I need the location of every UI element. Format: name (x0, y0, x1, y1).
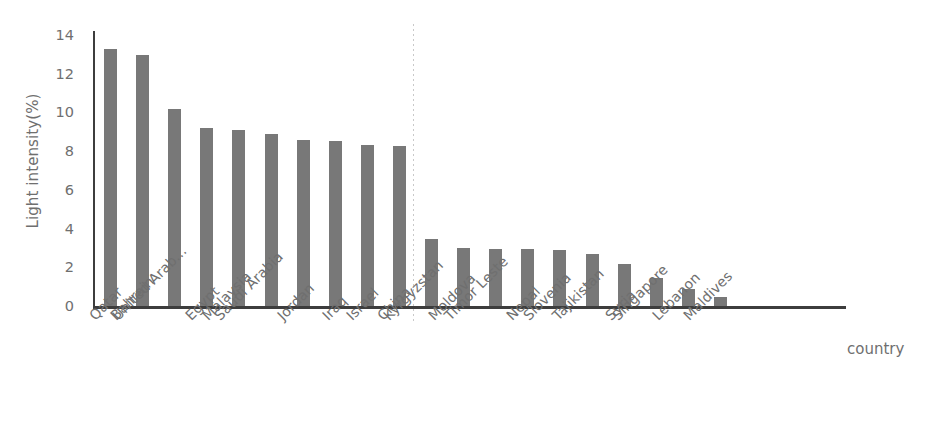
x-axis-title: country (847, 340, 904, 358)
x-tick-label: United Arab... (109, 243, 190, 324)
x-axis-tick-labels: QatarBahrainUnited Arab...EgyptMalaysiaS… (0, 0, 930, 424)
bar-chart: Light intensity(%) 02468101214 QatarBahr… (0, 0, 930, 424)
x-tick-label: Jordan (274, 280, 317, 323)
x-tick-label: Israel (343, 285, 382, 324)
